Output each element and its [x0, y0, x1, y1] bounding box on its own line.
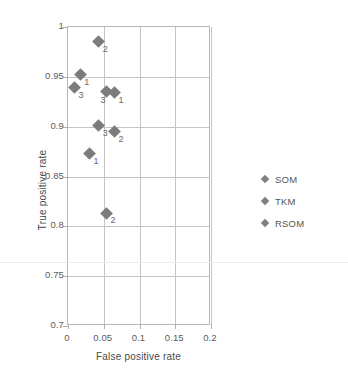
data-point-label: 2: [103, 45, 108, 54]
scatter-chart: 0.70.750.80.850.90.951 True positive rat…: [0, 0, 348, 379]
chart-legend: SOMTKMRSOM: [262, 168, 332, 234]
y-axis-title: True positive rate: [37, 149, 48, 230]
gridline-vertical: [104, 27, 105, 324]
gridline-horizontal: [68, 177, 209, 178]
x-tick-label: 0.1: [119, 333, 159, 343]
gridline-vertical: [175, 27, 176, 324]
legend-item-tkm[interactable]: TKM: [262, 190, 332, 212]
diamond-marker-icon: [261, 219, 269, 227]
y-tick-label: 0.7: [20, 320, 64, 330]
y-tick-label: 0.95: [20, 71, 64, 81]
legend-item-label: TKM: [275, 196, 296, 207]
data-point-label: 3: [101, 96, 106, 105]
gridline-vertical: [140, 27, 141, 324]
tick-mark-y: [63, 77, 68, 78]
data-point-label: 1: [118, 96, 123, 105]
data-point-label: 3: [78, 91, 83, 100]
gridline-horizontal: [68, 276, 209, 277]
gridline-horizontal: [68, 127, 209, 128]
diamond-marker-icon: [261, 197, 269, 205]
scan-artifact-line: [0, 262, 348, 263]
data-point-label: 2: [118, 135, 123, 144]
tick-mark-y: [63, 276, 68, 277]
legend-item-label: SOM: [275, 174, 297, 185]
x-tick-label: 0.15: [154, 333, 194, 343]
data-point-label: 3: [103, 129, 108, 138]
tick-mark-y: [63, 127, 68, 128]
y-tick-label: 1: [20, 21, 64, 31]
plot-area: 213313212: [67, 26, 210, 325]
x-tick-label: 0.05: [83, 333, 123, 343]
tick-mark-x: [140, 324, 141, 329]
legend-item-rsom[interactable]: RSOM: [262, 212, 332, 234]
x-tick-label: 0: [47, 333, 87, 343]
tick-mark-x: [211, 324, 212, 329]
data-point-label: 1: [84, 78, 89, 87]
x-axis-title: False positive rate: [67, 351, 210, 362]
tick-mark-x: [175, 324, 176, 329]
y-tick-label: 0.75: [20, 270, 64, 280]
legend-item-label: RSOM: [275, 218, 304, 229]
tick-mark-x: [68, 324, 69, 329]
gridline-horizontal: [68, 226, 209, 227]
tick-mark-y: [63, 226, 68, 227]
gridline-vertical: [211, 27, 212, 324]
tick-mark-y: [63, 177, 68, 178]
data-point-label: 2: [111, 216, 116, 225]
tick-mark-x: [104, 324, 105, 329]
y-tick-label: 0.9: [20, 121, 64, 131]
legend-item-som[interactable]: SOM: [262, 168, 332, 190]
x-tick-label: 0.2: [190, 333, 230, 343]
tick-mark-y: [63, 27, 68, 28]
data-point-label: 1: [93, 157, 98, 166]
diamond-marker-icon: [261, 175, 269, 183]
